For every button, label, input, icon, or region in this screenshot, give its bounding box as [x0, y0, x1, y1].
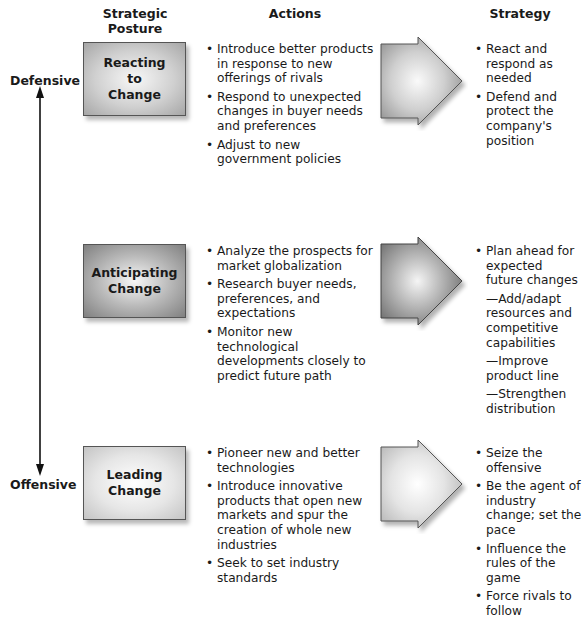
action-item: Introduce innovative products that open … [206, 479, 376, 552]
header-strategy: Strategy [485, 6, 555, 21]
posture-box-leading-change: Leading Change [83, 446, 186, 520]
strategy-subitem: —Improve product line [475, 354, 583, 383]
action-item: Monitor new technological developments c… [206, 325, 376, 383]
action-item: Analyze the prospects for market globali… [206, 244, 376, 273]
actions-list-reacting: Introduce better products in response to… [206, 42, 376, 171]
strategy-list-reacting: React and respond as needed Defend and p… [475, 42, 583, 152]
posture-box-reacting-to-change: Reacting to Change [83, 42, 186, 116]
strategy-item: Be the agent of industry change; set the… [475, 479, 583, 537]
header-actions: Actions [250, 6, 340, 21]
strategy-item: React and respond as needed [475, 42, 583, 86]
strategy-subitem: —Strengthen distribution [475, 387, 583, 416]
defensive-offensive-axis-arrow [34, 86, 46, 476]
header-posture-line2: Posture [100, 21, 170, 36]
strategy-subitem: —Add/adapt resources and competitive cap… [475, 292, 583, 350]
action-item: Introduce better products in response to… [206, 42, 376, 86]
action-item: Adjust to new government policies [206, 138, 376, 167]
posture-label-line: Leading [107, 467, 163, 483]
header-posture-line1: Strategic [100, 6, 170, 21]
header-strategic-posture: Strategic Posture [100, 6, 170, 36]
strategy-list-anticipating: Plan ahead for expected future changes —… [475, 244, 583, 421]
posture-label-line: Change [103, 87, 165, 103]
posture-box-anticipating-change: Anticipating Change [83, 244, 186, 318]
posture-label-line: Change [91, 281, 177, 297]
actions-list-anticipating: Analyze the prospects for market globali… [206, 244, 376, 387]
posture-label-line: Anticipating [91, 265, 177, 281]
action-item: Seek to set industry standards [206, 556, 376, 585]
strategy-list-leading: Seize the offensive Be the agent of indu… [475, 446, 583, 619]
posture-label-line: Reacting [103, 55, 165, 71]
right-arrow-icon [378, 35, 468, 131]
actions-list-leading: Pioneer new and better technologies Intr… [206, 446, 376, 589]
posture-label-line: to [103, 71, 165, 87]
right-arrow-icon [378, 235, 468, 331]
strategy-item: Seize the offensive [475, 446, 583, 475]
action-item: Research buyer needs, preferences, and e… [206, 277, 376, 321]
axis-label-offensive: Offensive [10, 477, 76, 492]
posture-label-line: Change [107, 483, 163, 499]
action-item: Pioneer new and better technologies [206, 446, 376, 475]
strategy-item: Force rivals to follow [475, 589, 583, 618]
strategy-item: Influence the rules of the game [475, 542, 583, 586]
strategy-item: Plan ahead for expected future changes [475, 244, 583, 288]
right-arrow-icon [378, 438, 468, 534]
action-item: Respond to unexpected changes in buyer n… [206, 90, 376, 134]
strategy-item: Defend and protect the company's positio… [475, 90, 583, 148]
